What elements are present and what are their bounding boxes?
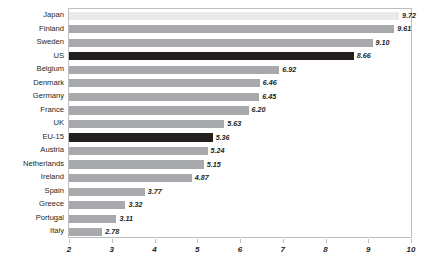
bar-row: 9.72 [69, 9, 411, 23]
bar-row: 6.20 [69, 104, 411, 118]
category-label-us: US [0, 49, 64, 63]
x-tick [112, 239, 113, 243]
bar-row: 3.11 [69, 212, 411, 226]
bar-value-label: 9.61 [397, 23, 411, 35]
bar-value-label: 2.78 [105, 226, 119, 238]
bar-denmark [69, 79, 260, 87]
bar-portugal [69, 215, 116, 223]
x-tick [411, 239, 412, 243]
bar-austria [69, 147, 208, 155]
bar-spain [69, 188, 145, 196]
bar-value-label: 6.20 [252, 104, 266, 116]
bar-value-label: 3.11 [119, 213, 132, 225]
bar-greece [69, 201, 125, 209]
x-tick-label: 5 [182, 245, 212, 254]
category-label-greece: Greece [0, 197, 64, 211]
bar-value-label: 3.32 [128, 199, 142, 211]
bar-row: 5.24 [69, 144, 411, 158]
category-label-germany: Germany [0, 89, 64, 103]
bar-row: 9.10 [69, 36, 411, 50]
category-label-eu-15: EU-15 [0, 130, 64, 144]
category-label-spain: Spain [0, 184, 64, 198]
category-label-finland: Finland [0, 22, 64, 36]
bar-row: 9.61 [69, 23, 411, 37]
category-label-denmark: Denmark [0, 76, 64, 90]
category-label-portugal: Portugal [0, 211, 64, 225]
category-label-uk: UK [0, 116, 64, 130]
x-tick-label: 8 [311, 245, 341, 254]
x-tick-label: 2 [54, 245, 84, 254]
bar-netherlands [69, 160, 204, 168]
bar-value-label: 5.63 [227, 118, 241, 130]
bar-value-label: 6.92 [282, 64, 296, 76]
x-tick-label: 4 [140, 245, 170, 254]
x-tick [240, 239, 241, 243]
bar-germany [69, 93, 259, 101]
bar-row: 2.78 [69, 225, 411, 239]
bar-value-label: 5.24 [211, 145, 225, 157]
bar-belgium [69, 66, 279, 74]
bar-us [69, 52, 354, 60]
x-tick [69, 239, 70, 243]
bar-ireland [69, 174, 192, 182]
bar-value-label: 4.87 [195, 172, 209, 184]
bar-value-label: 3.77 [148, 186, 162, 198]
bar-eu-15 [69, 133, 213, 141]
bar-value-label: 6.45 [262, 91, 276, 103]
category-label-netherlands: Netherlands [0, 157, 64, 171]
category-label-ireland: Ireland [0, 170, 64, 184]
bar-row: 6.46 [69, 77, 411, 91]
bar-value-label: 9.72 [402, 10, 416, 22]
bar-france [69, 106, 249, 114]
bar-row: 4.87 [69, 171, 411, 185]
x-tick [197, 239, 198, 243]
bar-chart: JapanFinlandSwedenUSBelgiumDenmarkGerman… [0, 0, 441, 266]
category-label-france: France [0, 103, 64, 117]
bar-row: 5.63 [69, 117, 411, 131]
bar-row: 5.15 [69, 158, 411, 172]
x-tick-label: 7 [268, 245, 298, 254]
category-label-sweden: Sweden [0, 35, 64, 49]
bar-italy [69, 228, 102, 236]
category-label-italy: Italy [0, 224, 64, 238]
plot-area: 9.729.619.108.666.926.466.456.205.635.36… [68, 8, 412, 238]
bar-row: 3.32 [69, 198, 411, 212]
x-tick-label: 9 [353, 245, 383, 254]
bar-row: 3.77 [69, 185, 411, 199]
category-label-japan: Japan [0, 8, 64, 22]
bar-row: 6.92 [69, 63, 411, 77]
x-tick [283, 239, 284, 243]
bar-value-label: 6.46 [263, 77, 277, 89]
bar-row: 5.36 [69, 131, 411, 145]
bar-row: 6.45 [69, 90, 411, 104]
bar-finland [69, 25, 394, 33]
category-label-belgium: Belgium [0, 62, 64, 76]
bar-value-label: 8.66 [357, 50, 371, 62]
x-tick-label: 10 [396, 245, 426, 254]
bar-row: 8.66 [69, 50, 411, 64]
x-tick-label: 3 [97, 245, 127, 254]
bar-sweden [69, 39, 373, 47]
x-tick [155, 239, 156, 243]
category-label-austria: Austria [0, 143, 64, 157]
x-tick [326, 239, 327, 243]
bar-uk [69, 120, 224, 128]
bar-value-label: 9.10 [376, 37, 390, 49]
bar-value-label: 5.15 [207, 159, 221, 171]
x-tick-label: 6 [225, 245, 255, 254]
bar-japan [69, 12, 399, 20]
x-tick [368, 239, 369, 243]
bar-value-label: 5.36 [216, 132, 230, 144]
